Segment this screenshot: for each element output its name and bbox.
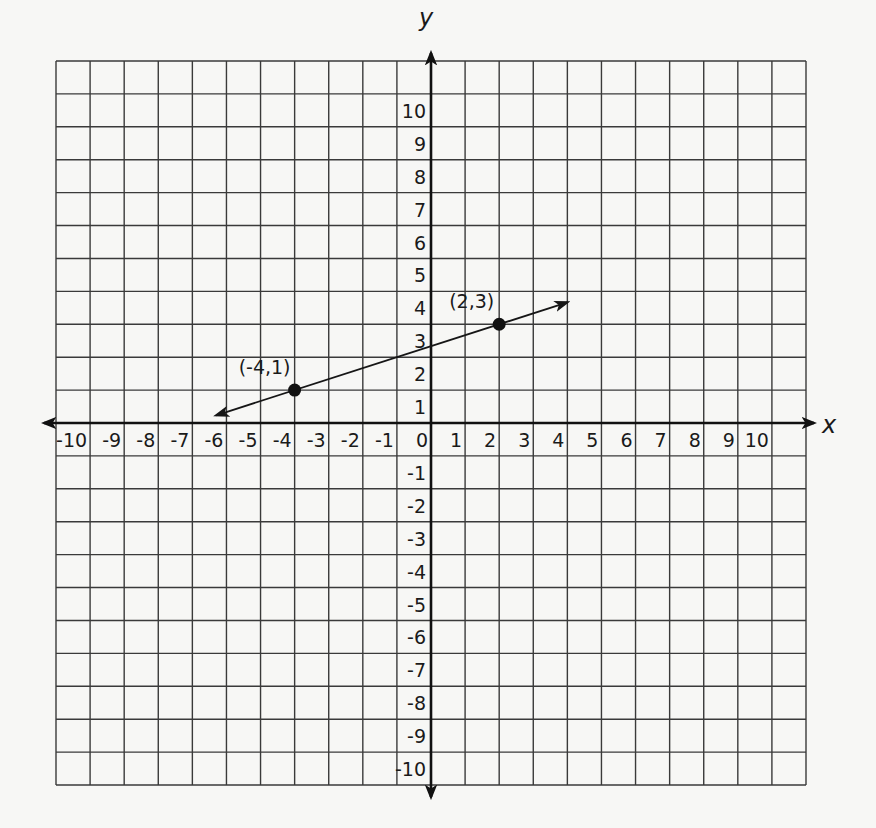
y-tick-label: -6 <box>407 626 426 648</box>
data-point-label: (-4,1) <box>239 356 291 378</box>
y-tick-label: -10 <box>395 758 426 780</box>
y-tick-label: 9 <box>414 133 426 155</box>
data-point <box>288 384 301 397</box>
x-tick-label: -5 <box>239 429 258 451</box>
x-tick-label: 2 <box>484 429 496 451</box>
y-tick-label: -5 <box>407 594 426 616</box>
y-tick-label: -9 <box>407 725 426 747</box>
y-tick-label: 8 <box>414 166 426 188</box>
y-axis-title: y <box>418 4 434 32</box>
x-tick-label: 6 <box>620 429 632 451</box>
y-tick-label: -1 <box>407 462 426 484</box>
x-tick-label: 7 <box>655 429 667 451</box>
y-tick-label: 6 <box>414 232 426 254</box>
x-tick-label: -2 <box>341 429 360 451</box>
x-tick-label: 0 <box>416 429 428 451</box>
x-tick-label: -6 <box>205 429 224 451</box>
y-tick-label: 4 <box>414 297 426 319</box>
y-tick-label: -4 <box>407 561 426 583</box>
coordinate-plane: -10-9-8-7-6-5-4-3-2-10123456789101098765… <box>0 0 876 828</box>
x-axis-title: x <box>821 411 837 439</box>
x-tick-label: -1 <box>375 429 394 451</box>
y-tick-label: 1 <box>414 396 426 418</box>
x-tick-label: 9 <box>723 429 735 451</box>
x-tick-label: 8 <box>689 429 701 451</box>
x-tick-label: -7 <box>170 429 189 451</box>
x-tick-label: 1 <box>450 429 462 451</box>
data-point <box>493 318 506 331</box>
y-tick-label: -3 <box>407 528 426 550</box>
x-tick-label: -8 <box>136 429 155 451</box>
y-tick-label: -7 <box>407 659 426 681</box>
y-tick-label: 5 <box>414 264 426 286</box>
y-tick-label: 2 <box>414 363 426 385</box>
x-tick-label: -3 <box>307 429 326 451</box>
data-series: (-4,1)(2,3) <box>216 290 567 415</box>
x-tick-label: 4 <box>552 429 564 451</box>
y-tick-label: 7 <box>414 199 426 221</box>
y-tick-label: -8 <box>407 692 426 714</box>
data-point-label: (2,3) <box>449 290 494 312</box>
x-tick-label: -10 <box>56 429 87 451</box>
x-tick-label: -4 <box>273 429 292 451</box>
x-tick-label: -9 <box>102 429 121 451</box>
axes <box>44 53 814 797</box>
x-tick-label: 3 <box>518 429 530 451</box>
y-tick-label: -2 <box>407 495 426 517</box>
x-tick-label: 5 <box>586 429 598 451</box>
x-tick-label: 10 <box>745 429 769 451</box>
y-tick-label: 10 <box>402 100 426 122</box>
tick-labels: -10-9-8-7-6-5-4-3-2-10123456789101098765… <box>56 100 769 780</box>
